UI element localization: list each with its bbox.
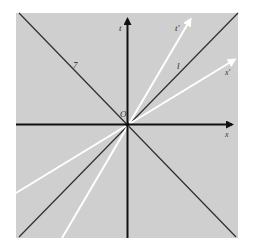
diagram-canvas: t x t' x' l 7 O [0,0,253,244]
spacetime-diagram: t x t' x' l 7 O [0,0,253,244]
origin-point [126,123,130,127]
light-line-other-label: 7 [73,60,78,70]
x-prime-label: x' [224,68,231,77]
origin-label: O [120,109,127,119]
x-axis-label: x [224,130,229,139]
